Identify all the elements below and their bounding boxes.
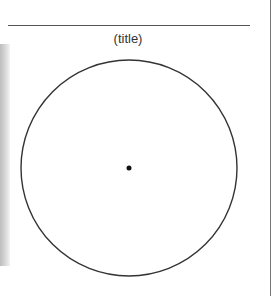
circle-diagram xyxy=(0,0,274,296)
center-point xyxy=(127,166,132,171)
